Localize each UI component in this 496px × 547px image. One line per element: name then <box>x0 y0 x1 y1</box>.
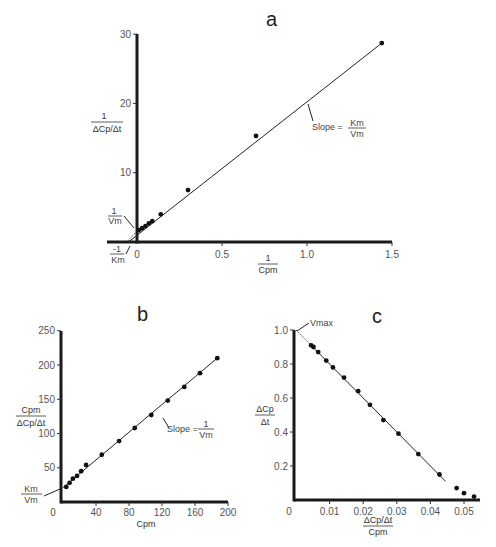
panel-c-vmax-label: Vmax <box>310 318 334 328</box>
y-tick-label: 1.0 <box>274 325 288 336</box>
panel-c-vmax-pointer <box>297 323 309 331</box>
x-tick-label: 0.5 <box>215 249 229 260</box>
data-point <box>132 426 137 431</box>
data-point <box>75 474 80 479</box>
panel-a-xlabel-denominator: Cpm <box>258 265 277 275</box>
panel-a-xint-denominator: Km <box>111 255 125 265</box>
y-tick-label: 0.2 <box>274 461 288 472</box>
panel-a-slope-pointer <box>308 104 313 121</box>
panel-c-xlabel-numerator: ΔCp/Δt <box>364 515 393 525</box>
x-tick-label: 0.04 <box>421 506 441 517</box>
data-point <box>186 188 191 193</box>
y-tick-label: 0.6 <box>274 393 288 404</box>
data-point <box>396 431 401 436</box>
panel-a: a 10203000.51.01.5 1 ΔCp/Δt 1 Cpm Slope … <box>91 8 399 275</box>
data-point <box>311 345 316 350</box>
panel-b-ylabel-numerator: Cpm <box>21 405 40 415</box>
data-point <box>215 356 220 361</box>
data-point <box>84 463 89 468</box>
panel-b-xlabel: Cpm <box>136 519 155 529</box>
panel-a-yint-numerator: 1 <box>111 206 116 216</box>
data-point <box>67 480 72 485</box>
y-tick-label: 50 <box>44 462 56 473</box>
fit-line <box>63 358 217 487</box>
panel-b-slope-denominator: Vm <box>199 430 213 440</box>
data-point <box>379 41 384 46</box>
y-tick-label: 250 <box>38 325 55 336</box>
panel-c-xlabel-denominator: Cpm <box>368 527 387 537</box>
data-point <box>331 365 336 370</box>
x-tick-label: 80 <box>123 507 135 518</box>
x-tick-label: 160 <box>187 507 204 518</box>
fit-line <box>129 43 382 242</box>
x-tick-label: 0 <box>134 249 140 260</box>
x-tick-label: 40 <box>90 507 102 518</box>
x-tick-label: 1.0 <box>300 249 314 260</box>
data-point <box>356 389 361 394</box>
panel-c-title: c <box>372 305 382 327</box>
data-point <box>79 469 84 474</box>
panel-b-yint-pointer <box>44 489 60 496</box>
panel-a-xlabel-numerator: 1 <box>265 253 270 263</box>
panel-b-yint-numerator: Km <box>24 484 38 494</box>
data-point <box>165 398 170 403</box>
data-point <box>254 134 259 139</box>
data-point <box>316 350 321 355</box>
data-point <box>198 371 203 376</box>
data-point <box>150 219 155 224</box>
data-point <box>342 375 347 380</box>
panel-a-slope-numerator: Km <box>350 118 364 128</box>
data-point <box>454 486 459 491</box>
x-tick-label: 0.01 <box>320 506 340 517</box>
panel-b-yint-denominator: Vm <box>24 495 38 505</box>
panel-b: b 5010015020025004080120160200 Cpm ΔCp/Δ… <box>16 303 237 529</box>
data-point <box>71 476 76 481</box>
y-tick-label: 30 <box>120 29 132 40</box>
panel-b-ylabel-denominator: ΔCp/Δt <box>17 418 46 428</box>
panel-c-ylabel-numerator: ΔCp <box>256 404 274 414</box>
data-point <box>368 402 373 407</box>
panel-a-yint-denominator: Vm <box>108 216 122 226</box>
y-tick-label: 200 <box>38 360 55 371</box>
y-tick-label: 150 <box>38 394 55 405</box>
panel-a-slope-text: Slope = <box>312 122 343 132</box>
y-tick-label: 0.4 <box>274 427 288 438</box>
data-point <box>158 212 163 217</box>
x-tick-label: 200 <box>220 507 237 518</box>
data-point <box>64 485 69 490</box>
panel-b-slope-numerator: 1 <box>203 419 208 429</box>
y-tick-label: 0.8 <box>274 359 288 370</box>
x-tick-label: 0 <box>50 507 56 518</box>
panel-a-ylabel-numerator: 1 <box>101 111 106 121</box>
data-point <box>117 439 122 444</box>
data-point <box>324 358 329 363</box>
panel-c-plot: 0.20.40.60.81.000.010.020.030.040.05 <box>274 325 480 518</box>
data-point <box>472 494 477 499</box>
y-tick-label: 20 <box>120 98 132 109</box>
panel-a-ylabel-denominator: ΔCp/Δt <box>93 124 122 134</box>
data-point <box>149 413 154 418</box>
panel-b-title: b <box>137 303 148 325</box>
kinetics-figure: a 10203000.51.01.5 1 ΔCp/Δt 1 Cpm Slope … <box>0 0 496 547</box>
x-tick-label: 1.5 <box>385 249 399 260</box>
panel-c-ylabel-denominator: Δt <box>261 417 270 427</box>
x-tick-label: 120 <box>154 507 171 518</box>
data-point <box>416 452 421 457</box>
panel-b-slope-text: Slope = <box>167 424 198 434</box>
data-point <box>437 472 442 477</box>
panel-a-plot: 10203000.51.01.5 <box>107 29 399 260</box>
x-tick-label: 0.05 <box>454 506 474 517</box>
panel-a-title: a <box>266 8 278 30</box>
y-tick-label: 100 <box>38 428 55 439</box>
data-point <box>462 491 467 496</box>
data-point <box>182 385 187 390</box>
panel-a-yint-pointer <box>124 216 134 228</box>
panel-a-slope-denominator: Vm <box>350 129 364 139</box>
extrapolation-line <box>296 330 311 345</box>
panel-a-xint-numerator: -1 <box>113 244 121 254</box>
data-point <box>381 418 386 423</box>
panel-a-xint-pointer <box>126 246 130 254</box>
data-point <box>99 452 104 457</box>
panel-c: c 0.20.40.60.81.000.010.020.030.040.05 Δ… <box>255 305 480 537</box>
x-tick-label: 0 <box>286 506 292 517</box>
